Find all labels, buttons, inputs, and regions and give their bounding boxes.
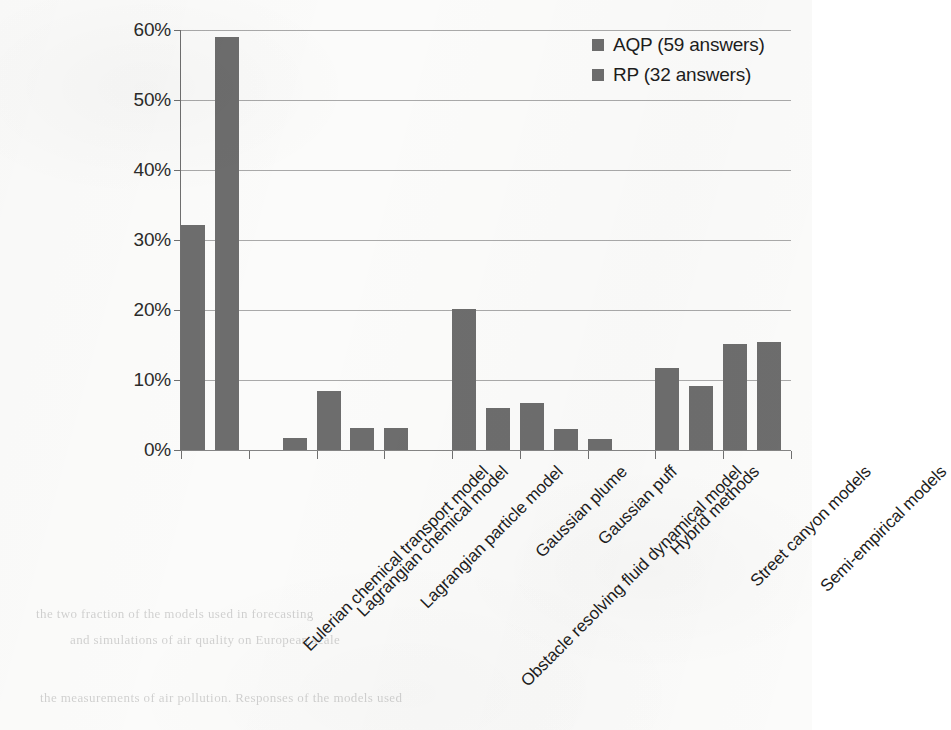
y-tick-label: 20%	[111, 299, 171, 321]
legend-label: AQP (59 answers)	[613, 34, 765, 56]
gridline-0	[181, 450, 791, 451]
y-tick-label: 60%	[111, 19, 171, 41]
bar	[554, 429, 578, 450]
y-tick-label: 40%	[111, 159, 171, 181]
legend-item: RP (32 answers)	[592, 60, 806, 90]
x-axis-category-label: Street canyon models	[747, 462, 876, 591]
x-tick-mark	[655, 451, 656, 459]
y-tick-label: 30%	[111, 229, 171, 251]
x-axis-category-label: Lagrangian chemical model	[353, 462, 512, 621]
x-axis-category-label: Gaussian puff	[594, 462, 681, 549]
bar	[181, 225, 205, 450]
scan-ghost-text-1: the two fraction of the models used in f…	[36, 606, 314, 622]
x-tick-mark	[791, 451, 792, 459]
bar	[588, 439, 612, 450]
y-axis: 60%50%40%30%20%10%0%	[105, 30, 171, 450]
x-tick-mark	[452, 451, 453, 459]
bar	[520, 403, 544, 450]
legend-swatch-icon	[592, 69, 604, 81]
x-tick-mark	[249, 451, 250, 459]
x-tick-mark	[317, 451, 318, 459]
bar-group	[181, 30, 249, 450]
legend-swatch-icon	[592, 39, 604, 51]
x-tick-mark	[588, 451, 589, 459]
x-tick-mark	[520, 451, 521, 459]
x-axis-category-label: Eulerian chemical transport model	[299, 462, 493, 656]
bar	[384, 428, 408, 450]
bar-group	[520, 30, 588, 450]
x-tick-mark	[181, 451, 182, 459]
y-tick-mark	[174, 380, 181, 381]
x-axis-category-label: Hybrid methods	[666, 462, 763, 559]
y-tick-label: 0%	[111, 439, 171, 461]
y-tick-mark	[174, 310, 181, 311]
x-axis-category-label: Semi-empirical models	[817, 462, 951, 596]
y-tick-mark	[174, 30, 181, 31]
legend-label: RP (32 answers)	[613, 64, 751, 86]
x-tick-mark	[723, 451, 724, 459]
y-tick-mark	[174, 450, 181, 451]
y-tick-mark	[174, 100, 181, 101]
bar-group	[317, 30, 385, 450]
legend-item: AQP (59 answers)	[592, 30, 806, 60]
x-axis-category-label: Gaussian plume	[532, 462, 632, 562]
chart-legend: AQP (59 answers)RP (32 answers)	[586, 24, 810, 98]
x-tick-mark	[384, 451, 385, 459]
bar	[215, 37, 239, 450]
bar	[723, 344, 747, 450]
y-tick-mark	[174, 240, 181, 241]
x-axis-category-label: Obstacle resolving fluid dynamical model	[517, 462, 746, 691]
bar-group	[452, 30, 520, 450]
bar	[689, 386, 713, 450]
x-axis-category-label: Lagrangian particle model	[417, 462, 568, 613]
scan-ghost-text-2: and simulations of air quality on Europe…	[70, 632, 340, 648]
y-tick-mark	[174, 170, 181, 171]
scan-ghost-text-3: the measurements of air pollution. Respo…	[40, 690, 402, 706]
y-tick-label: 50%	[111, 89, 171, 111]
bar	[655, 368, 679, 450]
bar-group	[249, 30, 317, 450]
bar	[350, 428, 374, 450]
bar	[283, 438, 307, 450]
bar	[486, 408, 510, 450]
bar	[452, 309, 476, 450]
bar-group	[384, 30, 452, 450]
y-tick-label: 10%	[111, 369, 171, 391]
bar	[317, 391, 341, 451]
bar	[757, 342, 781, 450]
